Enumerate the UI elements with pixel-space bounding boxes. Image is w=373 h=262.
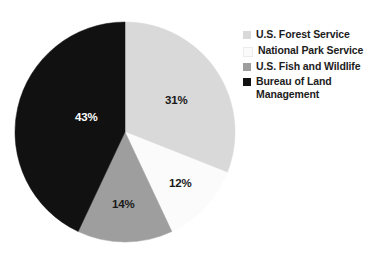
pie-label-12: 12% [169, 177, 191, 189]
pie-label-31: 31% [165, 94, 187, 106]
pie-label-43: 43% [75, 111, 97, 123]
legend-swatch-icon [243, 47, 253, 57]
legend-swatch-icon [243, 78, 251, 86]
pie-chart-plot-area: 31% 12% 14% 43% [14, 21, 236, 243]
legend-item-us-forest-service[interactable]: U.S. Forest Service [243, 28, 371, 41]
legend-item-label: U.S. Fish and Wildlife [256, 60, 360, 73]
chart-legend: U.S. Forest Service National Park Servic… [243, 28, 371, 103]
legend-swatch-icon [243, 63, 251, 71]
pie-chart-figure: 31% 12% 14% 43% U.S. Forest Service Nati… [0, 0, 373, 262]
legend-item-bureau-of-land-management[interactable]: Bureau of Land Management [243, 75, 371, 100]
legend-item-label: Bureau of Land Management [256, 75, 332, 100]
legend-item-label: U.S. Forest Service [256, 28, 350, 41]
legend-item-label: National Park Service [258, 44, 363, 57]
legend-item-national-park-service[interactable]: National Park Service [243, 44, 371, 57]
legend-item-us-fish-and-wildlife[interactable]: U.S. Fish and Wildlife [243, 60, 371, 73]
legend-swatch-icon [243, 31, 251, 39]
pie-label-14: 14% [112, 198, 134, 210]
pie-svg: 31% 12% 14% 43% [14, 21, 236, 243]
